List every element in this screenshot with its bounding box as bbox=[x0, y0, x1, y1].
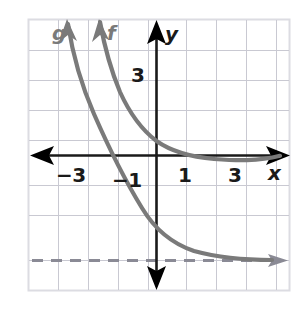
x-tick-label-neg3: −3 bbox=[56, 163, 86, 187]
x-tick-label-3: 3 bbox=[228, 163, 241, 187]
x-tick-label-1: 1 bbox=[178, 163, 191, 187]
curve-g-label: g bbox=[52, 21, 66, 45]
x-axis-label: x bbox=[268, 161, 281, 185]
y-axis-label: y bbox=[165, 22, 178, 46]
curve-f-label: f bbox=[107, 21, 116, 45]
y-tick-label-3: 3 bbox=[131, 63, 144, 87]
graph-figure: −3 1 3 3 −1 x y g f bbox=[0, 0, 305, 317]
coordinate-plane-svg bbox=[0, 0, 305, 317]
y-tick-label-neg1: −1 bbox=[112, 168, 142, 192]
